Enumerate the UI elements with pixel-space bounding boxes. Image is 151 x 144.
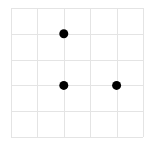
grid-lines [11, 8, 144, 138]
grid-dot [59, 81, 68, 90]
grid-dot [59, 29, 68, 38]
grid-canvas [0, 0, 151, 144]
grid-dot [112, 81, 121, 90]
dot-grid-board [0, 0, 151, 144]
